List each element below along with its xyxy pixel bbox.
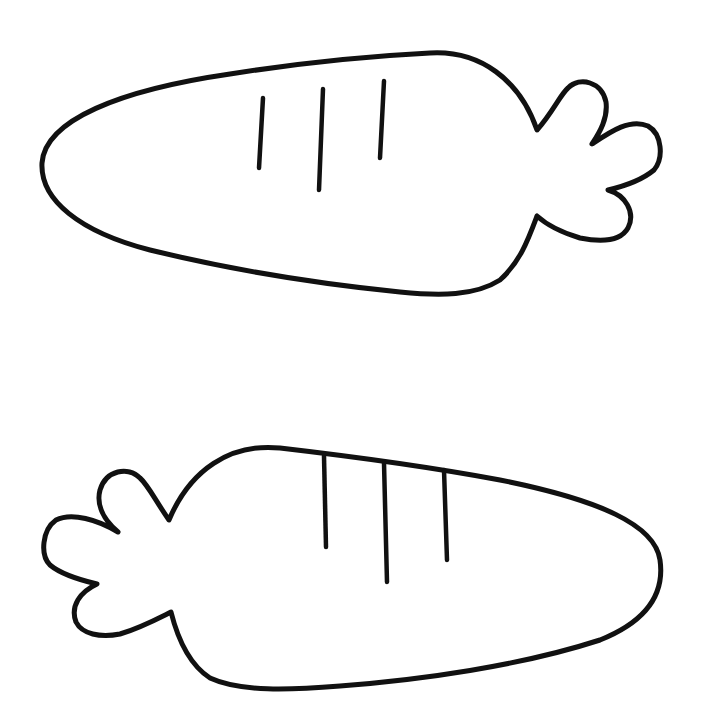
- carrot-drawing: [0, 0, 702, 717]
- carrot-bottom: [44, 447, 661, 689]
- carrot-top-outline: [42, 53, 660, 294]
- carrot-bottom-outline: [44, 447, 661, 689]
- carrot-top: [42, 53, 660, 294]
- carrot-bottom-stripe-3: [444, 470, 447, 560]
- carrot-bottom-stripe-1: [324, 456, 326, 547]
- carrot-bottom-stripe-2: [384, 463, 387, 582]
